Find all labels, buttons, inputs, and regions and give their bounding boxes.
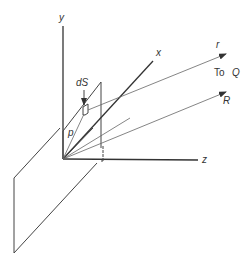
ds-label: dS [76, 77, 89, 88]
rho-label: p [67, 127, 74, 138]
x-axis-label: x [155, 47, 162, 58]
to-q-label: To Q [214, 67, 240, 78]
r-label: r [216, 39, 220, 50]
z-axis: z [63, 154, 207, 165]
to-q-point: Q [232, 67, 240, 78]
z-axis-label: z [201, 154, 207, 165]
diffraction-geometry-diagram: y z x dS p r R [0, 0, 252, 264]
y-axis: y [58, 12, 65, 159]
surface-element-ds: dS [76, 77, 89, 115]
R-label: R [223, 95, 230, 106]
origin-ray [63, 118, 130, 159]
to-q-prefix: To [214, 67, 225, 78]
lower-screen-plane [14, 128, 97, 253]
x-axis: x [63, 47, 162, 159]
y-axis-label: y [58, 12, 65, 23]
R-vector: R [63, 92, 230, 159]
